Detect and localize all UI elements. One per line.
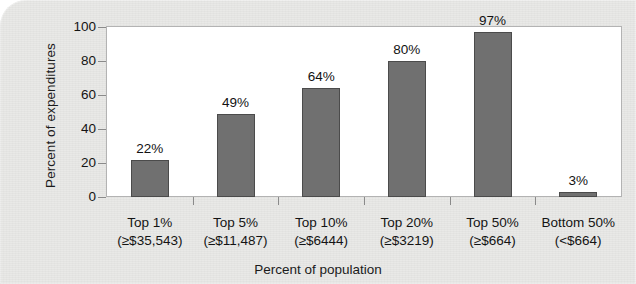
y-tick-mark bbox=[98, 27, 106, 28]
y-tick-label: 0 bbox=[56, 190, 96, 204]
x-category-name: Top 20% bbox=[381, 215, 434, 230]
bar-value-label: 49% bbox=[196, 96, 276, 110]
x-tick-mark bbox=[535, 197, 536, 205]
y-tick-label: 20 bbox=[56, 156, 96, 170]
x-category-label: Top 10%(≥$6444) bbox=[273, 214, 369, 250]
x-category-threshold: (<$664) bbox=[530, 232, 626, 250]
x-category-threshold: (≥$6444) bbox=[273, 232, 369, 250]
bar bbox=[559, 192, 597, 197]
y-tick-mark bbox=[98, 129, 106, 130]
bar-value-label: 97% bbox=[453, 14, 533, 28]
bar bbox=[388, 61, 426, 197]
bar bbox=[302, 88, 340, 197]
x-tick-mark bbox=[364, 197, 365, 205]
y-tick-label: 40 bbox=[56, 122, 96, 136]
bar-value-label: 3% bbox=[538, 174, 618, 188]
x-tick-mark bbox=[278, 197, 279, 205]
bars-layer bbox=[107, 27, 621, 197]
x-category-label: Top 1%(≥$35,543) bbox=[102, 214, 198, 250]
y-tick-label: 100 bbox=[56, 20, 96, 34]
y-tick-mark bbox=[98, 61, 106, 62]
bar-value-label: 22% bbox=[110, 142, 190, 156]
x-category-threshold: (≥$35,543) bbox=[102, 232, 198, 250]
x-category-label: Top 5%(≥$11,487) bbox=[188, 214, 284, 250]
x-category-threshold: (≥$3219) bbox=[359, 232, 455, 250]
x-axis-title: Percent of population bbox=[0, 262, 636, 277]
x-category-label: Top 50%(≥$664) bbox=[445, 214, 541, 250]
x-category-name: Top 10% bbox=[295, 215, 348, 230]
x-category-threshold: (≥$11,487) bbox=[188, 232, 284, 250]
x-tick-mark bbox=[450, 197, 451, 205]
bar bbox=[217, 114, 255, 197]
y-tick-label: 80 bbox=[56, 54, 96, 68]
x-category-name: Top 1% bbox=[127, 215, 172, 230]
x-tick-mark bbox=[193, 197, 194, 205]
y-tick-mark bbox=[98, 163, 106, 164]
y-tick-mark bbox=[98, 95, 106, 96]
x-category-name: Bottom 50% bbox=[541, 215, 615, 230]
bar-value-label: 80% bbox=[367, 43, 447, 57]
x-category-name: Top 50% bbox=[466, 215, 519, 230]
x-category-label: Top 20%(≥$3219) bbox=[359, 214, 455, 250]
bar-value-label: 64% bbox=[281, 70, 361, 84]
bar bbox=[131, 160, 169, 197]
bar bbox=[474, 32, 512, 197]
x-category-name: Top 5% bbox=[213, 215, 258, 230]
y-tick-label: 60 bbox=[56, 88, 96, 102]
y-axis-tick-labels: 020406080100 bbox=[52, 0, 96, 284]
y-tick-mark bbox=[98, 197, 106, 198]
chart-screenshot: Percent of expenditures 020406080100 22%… bbox=[0, 0, 636, 284]
x-category-label: Bottom 50%(<$664) bbox=[530, 214, 626, 250]
x-category-threshold: (≥$664) bbox=[445, 232, 541, 250]
